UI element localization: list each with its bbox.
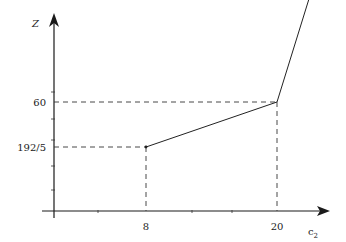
x-axis-label: c2 <box>308 226 318 240</box>
y-tick-label: 60 <box>33 97 46 108</box>
axes <box>42 13 330 218</box>
series-line <box>146 0 326 147</box>
x-axis-label-subscript: 2 <box>314 232 318 240</box>
x-tick-label: 20 <box>271 221 284 232</box>
y-tick-label: 192/5 <box>17 142 46 153</box>
chart: 192/5 60 8 20 Z c2 <box>0 0 346 242</box>
x-tick-label: 8 <box>143 221 149 232</box>
minor-ticks <box>51 92 232 213</box>
start-point-marker <box>145 146 148 149</box>
tick-labels: 192/5 60 8 20 <box>17 97 283 233</box>
guide-lines <box>54 102 277 211</box>
series <box>145 0 327 148</box>
y-axis-label: Z <box>31 18 40 29</box>
